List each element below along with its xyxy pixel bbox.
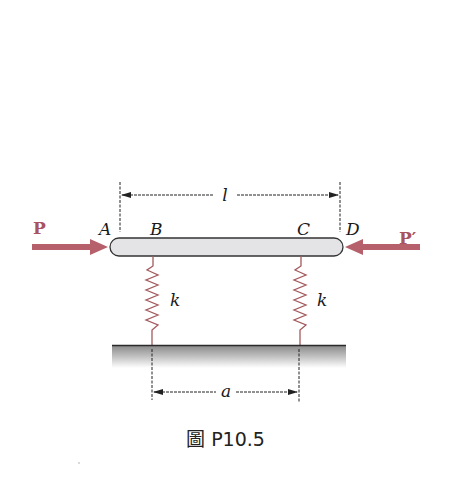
force-left-label: P <box>33 218 46 238</box>
point-b-label: B <box>149 219 163 239</box>
point-c-label: C <box>297 219 310 239</box>
point-a-label: A <box>97 219 111 239</box>
spring-left-label: k <box>170 290 180 310</box>
rigid-bar <box>110 238 343 256</box>
speck <box>78 462 80 464</box>
spring-left <box>146 256 158 345</box>
force-arrow-left: P <box>32 218 108 255</box>
column-spring-diagram: l A B C D P P′ k k a <box>0 0 451 494</box>
length-label: l <box>222 185 227 205</box>
spacing-label: a <box>221 381 231 401</box>
spring-right <box>294 256 306 345</box>
ground <box>112 346 346 369</box>
figure-caption: 圖 P10.5 <box>0 424 451 451</box>
point-d-label: D <box>345 219 360 239</box>
spring-right-label: k <box>317 290 327 310</box>
